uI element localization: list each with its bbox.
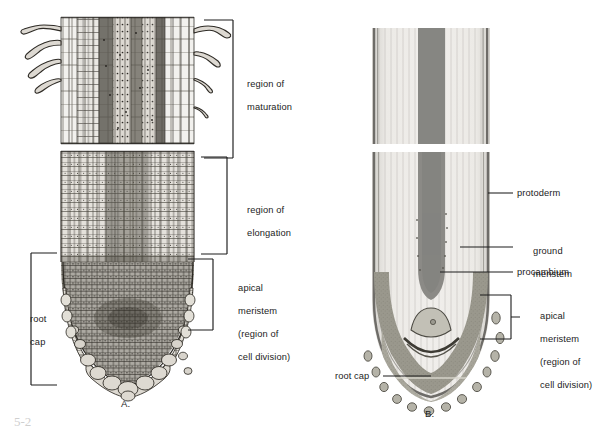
root-hairs-right — [194, 26, 231, 118]
label-line: root — [30, 314, 46, 324]
apical-meristem-tissue — [61, 262, 194, 387]
label-apical-meristem-b: apical meristem (region of cell division… — [524, 300, 592, 403]
label-apical-meristem-a: apical meristem (region of cell division… — [222, 272, 290, 375]
root-tip-anatomy-figure: region of maturation region of elongatio… — [0, 0, 607, 432]
panel-a: region of maturation region of elongatio… — [0, 0, 310, 432]
label-procambium: procambium — [517, 267, 569, 278]
label-ground-meristem: ground meristem — [517, 235, 572, 292]
panel-b: protoderm ground meristem procambium api… — [310, 0, 607, 432]
label-region-of-maturation: region of maturation — [231, 68, 292, 125]
bracket-region-of-elongation — [201, 157, 227, 254]
label-line: maturation — [247, 102, 292, 112]
caption-fragment: 5-2 — [14, 414, 31, 430]
label-line: cell division) — [238, 352, 290, 362]
panel-b-letter: B. — [425, 408, 434, 419]
label-line: apical — [238, 283, 263, 293]
label-line: (region of — [238, 329, 278, 339]
panel-a-letter: A. — [121, 398, 130, 409]
label-root-cap-b: root cap — [335, 371, 369, 382]
label-line: ground — [533, 246, 563, 256]
label-line: cell division) — [540, 380, 592, 390]
panel-b-upper-segment — [372, 28, 490, 144]
maturation-zone-tissue — [61, 17, 194, 144]
label-line: apical — [540, 311, 565, 321]
panel-b-lower-segment — [372, 152, 490, 412]
root-hairs — [21, 25, 61, 93]
label-line: region of — [247, 79, 284, 89]
label-root-cap-a: root cap — [14, 303, 47, 360]
label-line: cap — [30, 337, 45, 347]
label-protoderm: protoderm — [517, 188, 560, 199]
label-line: meristem — [540, 334, 579, 344]
label-line: elongation — [247, 228, 291, 238]
label-line: (region of — [540, 357, 580, 367]
label-line: meristem — [238, 306, 277, 316]
label-region-of-elongation: region of elongation — [231, 194, 291, 251]
label-line: region of — [247, 205, 284, 215]
